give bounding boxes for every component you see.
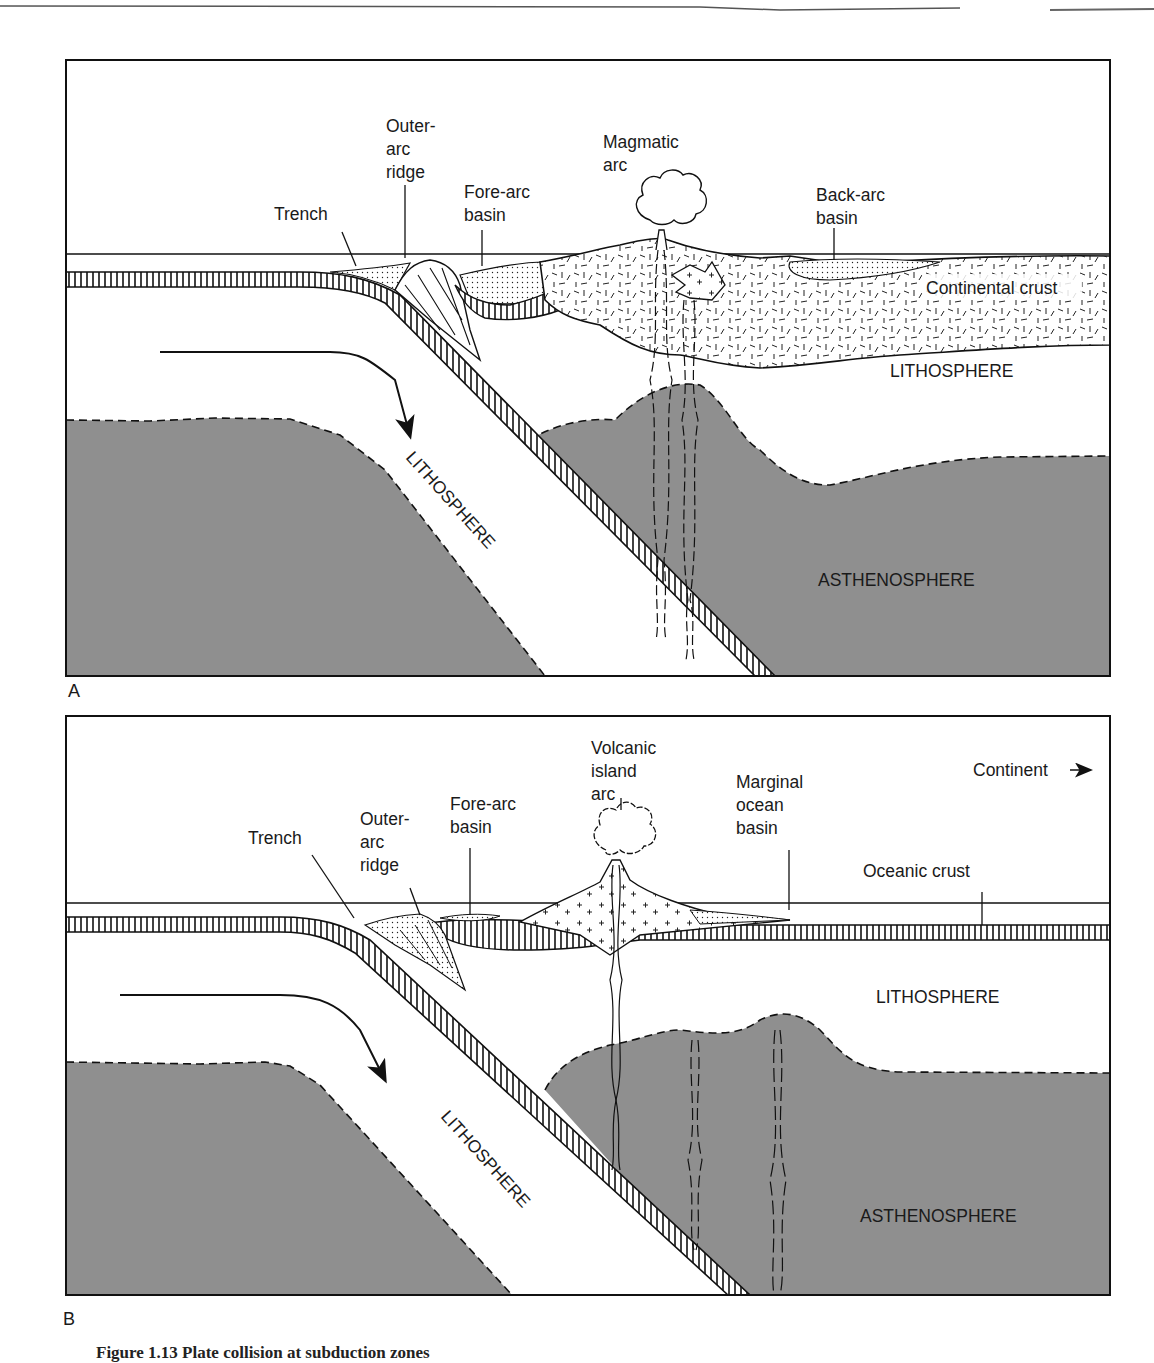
label-marginal-ocean-basin-2: ocean — [736, 795, 784, 815]
label-outer-arc-ridge-1: Outer- — [360, 809, 410, 829]
label-volcanic-island-arc-2: island — [591, 761, 637, 781]
label-fore-arc-basin-1: Fore-arc — [450, 794, 516, 814]
label-lithosphere-right: LITHOSPHERE — [876, 987, 1000, 1007]
label-continent: Continent — [973, 760, 1048, 780]
label-outer-arc-ridge-1: Outer- — [386, 116, 436, 136]
label-magmatic-arc-1: Magmatic — [603, 132, 679, 152]
label-back-arc-basin-2: basin — [816, 208, 858, 228]
label-volcanic-island-arc-1: Volcanic — [591, 738, 656, 758]
label-outer-arc-ridge-2: arc — [386, 139, 411, 159]
label-trench: Trench — [274, 204, 328, 224]
label-volcanic-island-arc-3: arc — [591, 784, 616, 804]
label-fore-arc-basin-1: Fore-arc — [464, 182, 530, 202]
scan-edge — [0, 6, 960, 10]
label-outer-arc-ridge-3: ridge — [360, 855, 399, 875]
label-marginal-ocean-basin-3: basin — [736, 818, 778, 838]
label-continental-crust: Continental crust — [926, 278, 1057, 298]
scan-edge — [1050, 9, 1154, 10]
label-magmatic-arc-2: arc — [603, 155, 628, 175]
label-outer-arc-ridge-3: ridge — [386, 162, 425, 182]
label-outer-arc-ridge-2: arc — [360, 832, 385, 852]
figure-caption: Figure 1.13 Plate collision at subductio… — [96, 1343, 430, 1363]
label-back-arc-basin-1: Back-arc — [816, 185, 885, 205]
eruption-cloud-icon — [636, 170, 706, 224]
label-fore-arc-basin-2: basin — [450, 817, 492, 837]
label-lithosphere-right: LITHOSPHERE — [890, 361, 1014, 381]
panel-letter-a: A — [68, 681, 80, 701]
panel-letter-b: B — [63, 1309, 75, 1329]
label-fore-arc-basin-2: basin — [464, 205, 506, 225]
label-oceanic-crust: Oceanic crust — [863, 861, 970, 881]
label-trench: Trench — [248, 828, 302, 848]
label-marginal-ocean-basin-1: Marginal — [736, 772, 803, 792]
label-asthenosphere: ASTHENOSPHERE — [860, 1206, 1017, 1226]
label-asthenosphere: ASTHENOSPHERE — [818, 570, 975, 590]
